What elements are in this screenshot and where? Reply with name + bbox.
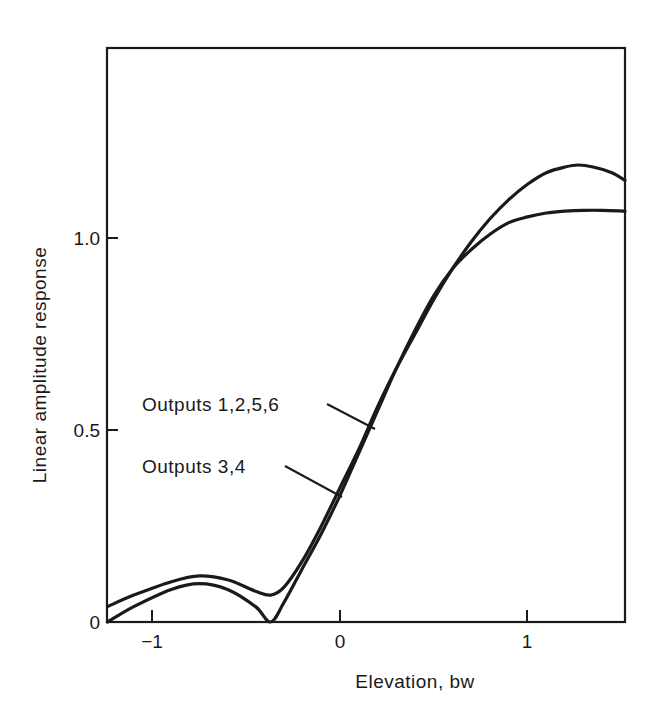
series-outputs-3-4-line xyxy=(108,210,626,622)
y-axis-title: Linear amplitude response xyxy=(29,247,50,483)
x-axis-title: Elevation, bw xyxy=(355,671,475,692)
y-ticks xyxy=(107,238,118,430)
annotation-leader-line xyxy=(327,404,375,429)
annotation-outputs-1-2-5-6: Outputs 1,2,5,6 xyxy=(142,394,279,415)
series-outputs-1-2-5-6-line xyxy=(108,165,626,607)
amplitude-response-chart: −1 0 1 0 0.5 1.0 Elevation, bw Linear am… xyxy=(0,0,657,719)
x-tick-label: 1 xyxy=(522,631,533,652)
x-ticks xyxy=(152,610,527,622)
annotation-leader-line xyxy=(285,466,342,497)
y-tick-label: 1.0 xyxy=(74,228,100,249)
y-tick-label: 0.5 xyxy=(74,420,100,441)
x-tick-label: −1 xyxy=(141,631,163,652)
y-tick-label: 0 xyxy=(89,612,100,633)
plot-frame xyxy=(107,48,625,622)
x-tick-label: 0 xyxy=(335,631,346,652)
annotation-outputs-3-4: Outputs 3,4 xyxy=(142,456,246,477)
